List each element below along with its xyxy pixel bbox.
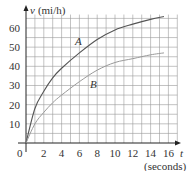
y-tick-label: 10 xyxy=(9,118,21,130)
y-tick-label: 60 xyxy=(9,22,21,34)
axes xyxy=(18,5,181,152)
x-tick-label: 14 xyxy=(145,147,157,159)
y-axis-label: v(mi/h) xyxy=(30,4,66,17)
tick-labels: 0246810121416102030405060 xyxy=(9,22,174,159)
x-tick-label: 16 xyxy=(163,147,175,159)
x-tick-label: 4 xyxy=(59,147,65,159)
velocity-chart: 0246810121416102030405060 v(mi/h) t (sec… xyxy=(0,0,187,171)
x-tick-label: 0 xyxy=(17,147,23,159)
x-tick-label: 8 xyxy=(94,147,100,159)
x-axis-label: t xyxy=(180,147,184,159)
x-tick-label: 10 xyxy=(110,147,122,159)
x-axis-units: (seconds) xyxy=(144,160,186,171)
y-axis-arrow-icon xyxy=(24,5,29,11)
x-axis-arrow-icon xyxy=(175,141,181,146)
grid xyxy=(26,15,177,143)
y-tick-label: 30 xyxy=(9,79,21,91)
y-tick-label: 40 xyxy=(9,60,21,72)
y-tick-label: 20 xyxy=(9,99,21,111)
x-tick-label: 6 xyxy=(77,147,83,159)
x-tick-label: 12 xyxy=(127,147,138,159)
y-tick-label: 50 xyxy=(9,41,21,53)
series-b-label: B xyxy=(90,78,97,90)
x-tick-label: 2 xyxy=(41,147,47,159)
series-a-label: A xyxy=(74,35,82,47)
